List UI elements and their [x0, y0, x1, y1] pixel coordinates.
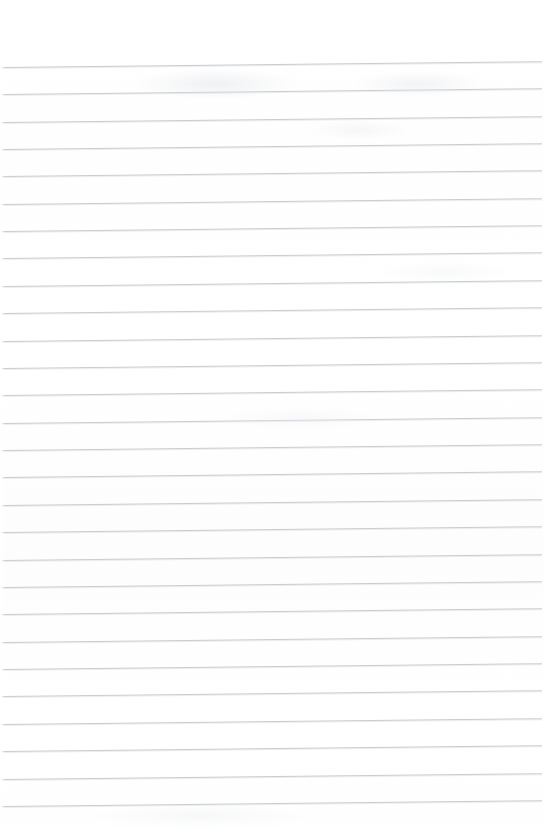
text-line[interactable] [0, 727, 546, 754]
scanned-page [0, 0, 546, 829]
text-line[interactable] [0, 125, 546, 152]
text-line[interactable] [0, 755, 546, 782]
text-line[interactable] [0, 645, 546, 672]
text-line[interactable] [0, 262, 546, 289]
text-line[interactable] [0, 672, 546, 699]
text-line[interactable] [0, 426, 546, 453]
text-line[interactable] [0, 98, 546, 125]
text-line[interactable] [0, 508, 546, 535]
text-line[interactable] [0, 317, 546, 344]
text-line[interactable] [0, 782, 546, 809]
text-line[interactable] [0, 700, 546, 727]
text-line[interactable] [0, 453, 546, 480]
text-line[interactable] [0, 289, 546, 316]
text-line[interactable] [0, 371, 546, 398]
text-line[interactable] [0, 234, 546, 261]
text-line[interactable] [0, 618, 546, 645]
text-line[interactable] [0, 344, 546, 371]
text-line[interactable] [0, 399, 546, 426]
text-line[interactable] [0, 43, 546, 70]
writing-area[interactable] [0, 0, 546, 829]
text-line[interactable] [0, 70, 546, 97]
text-line[interactable] [0, 481, 546, 508]
text-line[interactable] [0, 536, 546, 563]
text-line[interactable] [0, 590, 546, 617]
text-line[interactable] [0, 207, 546, 234]
text-line[interactable] [0, 152, 546, 179]
text-line[interactable] [0, 180, 546, 207]
text-line[interactable] [0, 563, 546, 590]
